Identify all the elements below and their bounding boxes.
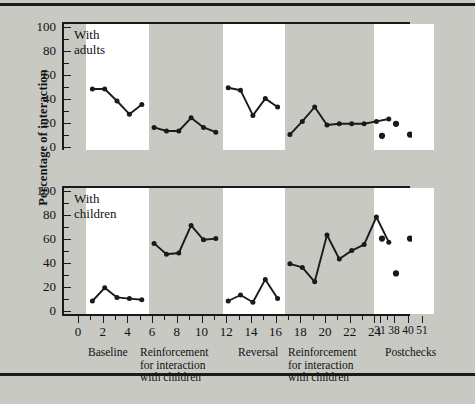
x-tick-mark — [251, 316, 252, 323]
data-point — [312, 279, 317, 284]
x-tick-mark — [152, 316, 153, 323]
y-tick-mark — [64, 215, 71, 216]
data-point — [176, 129, 181, 134]
data-point — [287, 261, 292, 266]
data-point — [201, 125, 206, 130]
panel-children-note: With children — [74, 191, 117, 221]
y-tick-mark — [64, 51, 71, 52]
data-point — [337, 257, 342, 262]
y-tick-label: 40 — [26, 92, 56, 105]
data-point — [115, 99, 120, 104]
x-tick-mark — [263, 316, 264, 320]
y-tick-mark-minor — [64, 63, 69, 64]
series-top — [64, 24, 412, 152]
y-tick-mark — [64, 311, 71, 312]
data-point — [102, 87, 107, 92]
chart-panel-adults — [62, 22, 410, 150]
x-tick-mark — [140, 316, 141, 320]
y-tick-mark — [64, 27, 71, 28]
y-tick-mark — [64, 239, 71, 240]
x-tick-mark — [164, 316, 165, 320]
x-tick-mark — [177, 316, 178, 323]
y-tick-mark — [64, 123, 71, 124]
data-point — [393, 121, 399, 127]
x-tick-label: 2 — [91, 324, 115, 340]
x-tick-mark-postcheck — [422, 316, 423, 323]
phase-line-2 — [154, 225, 216, 254]
y-tick-label: 20 — [26, 280, 56, 293]
y-tick-label: 80 — [26, 208, 56, 221]
data-point — [312, 105, 317, 110]
phase-line-4 — [290, 107, 389, 135]
data-point — [152, 125, 157, 130]
data-point — [127, 112, 132, 117]
x-tick-mark — [350, 316, 351, 323]
data-point — [226, 85, 231, 90]
data-point — [102, 285, 107, 290]
y-tick-label: 100 — [26, 20, 56, 33]
y-tick-mark-minor — [64, 227, 69, 228]
data-point — [407, 132, 412, 138]
data-point — [325, 233, 330, 238]
figure-root: Percentage of interaction With adults Wi… — [0, 0, 475, 404]
data-point — [213, 130, 218, 135]
x-tick-mark — [374, 316, 375, 323]
data-point — [226, 299, 231, 304]
y-tick-mark — [64, 263, 71, 264]
data-point — [263, 96, 268, 101]
x-tick-mark-postcheck — [394, 316, 395, 323]
x-tick-mark-postcheck — [380, 316, 381, 323]
data-point — [393, 270, 399, 276]
data-point — [300, 265, 305, 270]
y-tick-label: 80 — [26, 44, 56, 57]
x-tick-label-postcheck: 51 — [413, 324, 431, 336]
x-tick-label: 14 — [239, 324, 263, 340]
x-tick-mark — [313, 316, 314, 320]
data-point — [337, 121, 342, 126]
data-point — [213, 236, 218, 241]
y-tick-label: 20 — [26, 116, 56, 129]
x-tick-mark — [300, 316, 301, 323]
data-point — [362, 121, 367, 126]
x-tick-mark — [103, 316, 104, 323]
data-point — [287, 132, 292, 137]
phase-label-4: Reinforcement for interaction with child… — [288, 346, 388, 384]
x-tick-mark — [239, 316, 240, 320]
data-point — [386, 117, 391, 122]
y-tick-label: 60 — [26, 232, 56, 245]
y-tick-label: 100 — [26, 184, 56, 197]
x-tick-label: 4 — [115, 324, 139, 340]
phase-line-3 — [228, 88, 277, 116]
x-tick-mark-postcheck — [408, 316, 409, 323]
x-tick-mark — [288, 316, 289, 320]
y-tick-mark — [64, 75, 71, 76]
x-tick-mark — [226, 316, 227, 323]
y-tick-mark-minor — [64, 39, 69, 40]
phase-label-5: Postchecks — [385, 346, 465, 359]
x-tick-mark — [78, 316, 79, 323]
data-point — [127, 296, 132, 301]
data-point — [349, 248, 354, 253]
y-tick-mark-minor — [64, 135, 69, 136]
data-point — [139, 297, 144, 302]
data-point — [263, 277, 268, 282]
x-tick-mark — [189, 316, 190, 320]
data-point — [300, 119, 305, 124]
y-tick-mark — [64, 191, 71, 192]
data-point — [90, 299, 95, 304]
y-tick-mark — [64, 147, 71, 148]
data-point — [374, 119, 379, 124]
x-tick-mark — [276, 316, 277, 323]
data-point — [374, 215, 379, 220]
x-tick-label: 20 — [313, 324, 337, 340]
data-point — [164, 252, 169, 257]
data-point — [275, 296, 280, 301]
y-tick-mark-minor — [64, 87, 69, 88]
y-tick-mark — [64, 99, 71, 100]
x-tick-label: 16 — [264, 324, 288, 340]
x-tick-mark — [325, 316, 326, 323]
data-point — [238, 88, 243, 93]
x-tick-label: 8 — [165, 324, 189, 340]
phase-line-2 — [154, 118, 216, 132]
y-tick-mark-minor — [64, 299, 69, 300]
